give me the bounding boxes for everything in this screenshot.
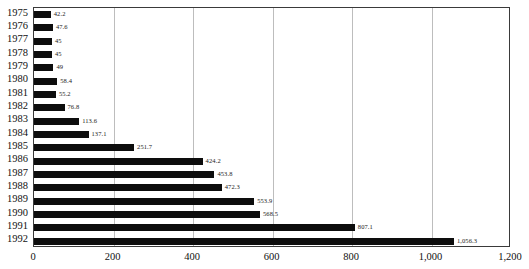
bar-value-label: 47.6 bbox=[56, 22, 68, 31]
bar-value-label: 45 bbox=[55, 49, 62, 58]
y-axis-label-1990: 1990 bbox=[7, 206, 28, 219]
bar-row: 42.2 bbox=[34, 8, 509, 21]
bar-row: 76.8 bbox=[34, 101, 509, 114]
y-axis-label-1992: 1992 bbox=[7, 232, 28, 245]
bar-value-label: 45 bbox=[55, 36, 62, 45]
bar-1980 bbox=[34, 78, 57, 85]
x-axis-tick-800: 800 bbox=[343, 250, 359, 264]
bar-value-label: 251.7 bbox=[137, 142, 152, 151]
bar-row: 113.6 bbox=[34, 115, 509, 128]
bar-1991 bbox=[34, 224, 355, 231]
y-axis-label-1988: 1988 bbox=[7, 179, 28, 192]
y-axis-label-1985: 1985 bbox=[7, 139, 28, 152]
x-axis-tick-labels: 02004006008001,0001,200 bbox=[0, 250, 529, 269]
y-axis-label-1981: 1981 bbox=[7, 86, 28, 99]
bar-row: 424.2 bbox=[34, 155, 509, 168]
bar-1976 bbox=[34, 24, 53, 31]
bar-chart: 1975197619771978197919801981198219831984… bbox=[0, 0, 529, 269]
bar-row: 807.1 bbox=[34, 221, 509, 234]
bar-value-label: 1,056.3 bbox=[457, 236, 477, 245]
bar-value-label: 568.5 bbox=[263, 209, 278, 218]
bar-1989 bbox=[34, 198, 254, 205]
bar-1985 bbox=[34, 144, 134, 151]
y-axis-label-1991: 1991 bbox=[7, 219, 28, 232]
y-axis-label-1982: 1982 bbox=[7, 99, 28, 112]
bar-value-label: 424.2 bbox=[206, 156, 221, 165]
bar-value-label: 472.3 bbox=[225, 182, 240, 191]
plot-area: 42.247.645454958.455.276.8113.6137.1251.… bbox=[33, 7, 510, 247]
bar-1984 bbox=[34, 131, 89, 138]
y-axis-label-1978: 1978 bbox=[7, 46, 28, 59]
bar-1986 bbox=[34, 158, 203, 165]
bar-rows: 42.247.645454958.455.276.8113.6137.1251.… bbox=[34, 8, 509, 246]
x-axis-tick-600: 600 bbox=[264, 250, 280, 264]
bar-1990 bbox=[34, 211, 260, 218]
bar-row: 251.7 bbox=[34, 141, 509, 154]
bar-value-label: 453.8 bbox=[217, 169, 232, 178]
bar-value-label: 76.8 bbox=[68, 102, 80, 111]
bar-1981 bbox=[34, 91, 56, 98]
bar-1978 bbox=[34, 51, 52, 58]
y-axis-label-1987: 1987 bbox=[7, 166, 28, 179]
y-axis-label-1976: 1976 bbox=[7, 19, 28, 32]
bar-1977 bbox=[34, 38, 52, 45]
y-axis-label-1975: 1975 bbox=[7, 6, 28, 19]
y-axis-category-labels: 1975197619771978197919801981198219831984… bbox=[0, 7, 31, 247]
bar-value-label: 55.2 bbox=[59, 89, 71, 98]
bar-1988 bbox=[34, 184, 222, 191]
bar-row: 47.6 bbox=[34, 21, 509, 34]
bar-1975 bbox=[34, 11, 51, 18]
bar-row: 553.9 bbox=[34, 195, 509, 208]
bar-row: 45 bbox=[34, 48, 509, 61]
bar-value-label: 49 bbox=[56, 62, 63, 71]
bar-value-label: 137.1 bbox=[92, 129, 107, 138]
bar-value-label: 553.9 bbox=[257, 196, 272, 205]
y-axis-label-1977: 1977 bbox=[7, 32, 28, 45]
y-axis-label-1979: 1979 bbox=[7, 59, 28, 72]
bar-row: 55.2 bbox=[34, 88, 509, 101]
x-axis-tick-200: 200 bbox=[105, 250, 121, 264]
bar-1992 bbox=[34, 238, 454, 245]
y-axis-label-1986: 1986 bbox=[7, 152, 28, 165]
x-axis-tick-400: 400 bbox=[184, 250, 200, 264]
bar-1987 bbox=[34, 171, 214, 178]
x-axis-tick-1200: 1,200 bbox=[498, 250, 522, 264]
y-axis-label-1980: 1980 bbox=[7, 72, 28, 85]
bar-row: 137.1 bbox=[34, 128, 509, 141]
y-axis-label-1983: 1983 bbox=[7, 112, 28, 125]
x-axis-tick-1000: 1,000 bbox=[419, 250, 443, 264]
bar-row: 472.3 bbox=[34, 181, 509, 194]
bar-value-label: 807.1 bbox=[358, 222, 373, 231]
bar-row: 45 bbox=[34, 35, 509, 48]
bar-row: 58.4 bbox=[34, 75, 509, 88]
y-axis-label-1984: 1984 bbox=[7, 126, 28, 139]
bar-value-label: 42.2 bbox=[54, 9, 66, 18]
x-axis-tick-0: 0 bbox=[30, 250, 35, 264]
bar-1982 bbox=[34, 104, 65, 111]
y-axis-label-1989: 1989 bbox=[7, 192, 28, 205]
bar-row: 1,056.3 bbox=[34, 235, 509, 248]
bar-row: 453.8 bbox=[34, 168, 509, 181]
bar-1979 bbox=[34, 64, 53, 71]
bar-value-label: 58.4 bbox=[60, 76, 72, 85]
bar-1983 bbox=[34, 118, 79, 125]
bar-row: 49 bbox=[34, 61, 509, 74]
bar-value-label: 113.6 bbox=[82, 116, 97, 125]
bar-row: 568.5 bbox=[34, 208, 509, 221]
